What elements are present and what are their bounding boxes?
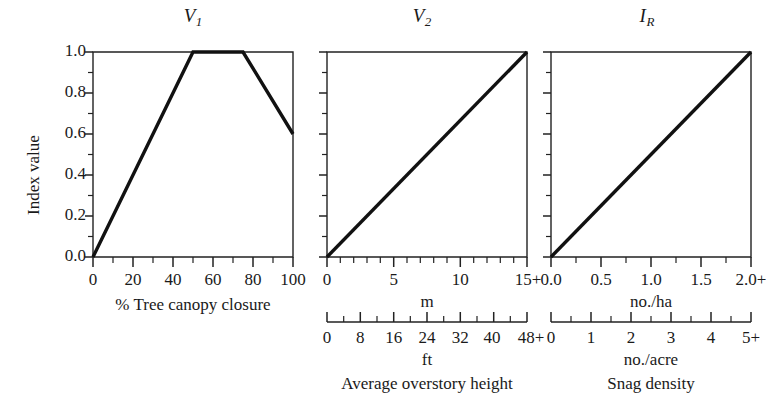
panel-2-x-tick-2: 10 (444, 270, 476, 290)
panel-2-sec-tick-5: 40 (476, 328, 508, 348)
panel-3-data-line (551, 52, 751, 257)
panel-3-group-caption: Snag density (561, 374, 741, 394)
panel-2-sec-tick-4: 32 (444, 328, 476, 348)
panel-1-x-tick-2: 40 (153, 270, 193, 290)
panel-1-x-tick-3: 60 (193, 270, 233, 290)
panel-3-x-tick-4: 2.0+ (724, 270, 777, 290)
panel-1-data-line (93, 52, 293, 257)
panel-3-sec-tick-5: 5+ (730, 328, 772, 348)
panel-2-group-caption: Average overstory height (307, 374, 547, 394)
panel-2-data-line (327, 52, 527, 257)
panel-1-x-caption: % Tree canopy closure (73, 295, 313, 315)
panel-2-sec-caption: ft (367, 350, 487, 370)
panel-3-sec-tick-1: 1 (575, 328, 607, 348)
panel-3-sec-tick-4: 4 (695, 328, 727, 348)
panel-2-sec-tick-2: 16 (378, 328, 410, 348)
panel-1-x-tick-0: 0 (73, 270, 113, 290)
panel-3-sec-caption: no./acre (591, 350, 711, 370)
panel-2-x-tick-1: 5 (378, 270, 410, 290)
panel-2-sec-tick-1: 8 (344, 328, 376, 348)
panel-3-sec-tick-3: 3 (655, 328, 687, 348)
panel-3-sec-tick-2: 2 (615, 328, 647, 348)
panel-3-x-tick-1: 0.5 (579, 270, 623, 290)
panel-3-x-tick-2: 1.0 (629, 270, 673, 290)
panel-3-x-tick-3: 1.5 (679, 270, 723, 290)
panel-3-secondary-axis (551, 312, 751, 322)
panel-1-x-tick-5: 100 (271, 270, 315, 290)
panel-2-secondary-axis (327, 312, 527, 322)
panel-3-x-caption: no./ha (591, 292, 711, 312)
panel-1-x-tick-1: 20 (113, 270, 153, 290)
panel-2-x-caption: m (367, 292, 487, 312)
panel-1-x-tick-4: 80 (233, 270, 273, 290)
panel-2-sec-tick-3: 24 (411, 328, 443, 348)
panel-2-sec-tick-0: 0 (311, 328, 343, 348)
index-value-figure: Index value 0.0 0.2 0.4 0.6 0.8 1.0 V1 V… (0, 0, 777, 409)
panel-2-x-tick-0: 0 (311, 270, 343, 290)
panel-3-sec-tick-0: 0 (535, 328, 567, 348)
panel-3-x-tick-0: 0.0 (529, 270, 573, 290)
